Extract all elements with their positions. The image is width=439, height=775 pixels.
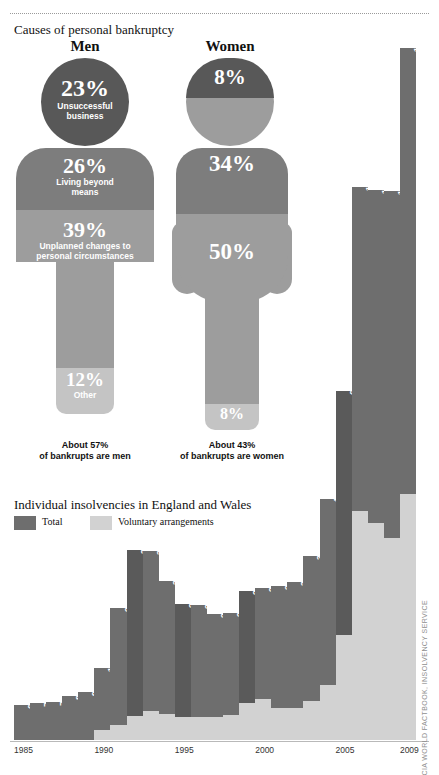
bar-voluntary: [303, 701, 319, 740]
bar-total: [46, 702, 62, 740]
bar-total: [62, 696, 78, 740]
bar-voluntary: [336, 635, 352, 740]
bar-voluntary: [207, 717, 223, 740]
bar-voluntary: [320, 685, 336, 740]
bar-voluntary: [175, 717, 191, 740]
bar-voluntary: [143, 711, 159, 740]
bar-total: [14, 705, 30, 740]
bar-voluntary: [110, 725, 126, 740]
bar-voluntary: [127, 716, 143, 740]
bar-voluntary: [159, 714, 175, 740]
bar-total: [127, 550, 143, 740]
bar-voluntary: [239, 703, 255, 740]
bar-total: [78, 692, 94, 740]
bar-voluntary: [400, 494, 416, 740]
tick-label: 2000: [255, 745, 274, 755]
tick-label: 2005: [336, 745, 355, 755]
bar-voluntary: [191, 717, 207, 740]
bar-voluntary: [368, 523, 384, 740]
tick-label: 1990: [94, 745, 113, 755]
bar-total: [110, 608, 126, 740]
source-credit: CIA WORLD FACTBOOK, INSOLVENCY SERVICE: [421, 600, 431, 750]
bar-total: [30, 703, 46, 740]
source-credit-text: CIA WORLD FACTBOOK, INSOLVENCY SERVICE: [421, 600, 428, 775]
bar-voluntary: [287, 708, 303, 740]
tick-label: 1985: [14, 745, 33, 755]
chart-axis-line: [10, 741, 429, 742]
bar-value-label: 26,271: [203, 580, 213, 609]
bar-value-label: 30,739: [171, 557, 181, 586]
bar-voluntary: [255, 699, 271, 740]
bar-voluntary: [94, 730, 110, 740]
bar-value-label: 107,288: [364, 157, 374, 191]
bar-voluntary: [384, 538, 400, 740]
tick-label: 2009: [400, 745, 419, 755]
bar-value-label: 36,703: [155, 526, 165, 555]
bar-voluntary: [271, 708, 287, 740]
bar-value-label: 106,645: [380, 160, 390, 194]
bar-voluntary: [223, 715, 239, 740]
tick-label: 1995: [175, 745, 194, 755]
bar-value-label: 134,142: [412, 18, 422, 52]
bar-voluntary: [352, 511, 368, 740]
